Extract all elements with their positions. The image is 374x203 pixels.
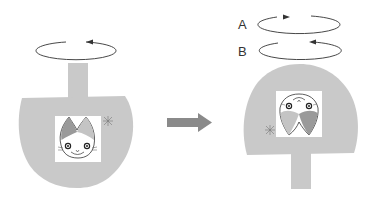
sparkle-icon <box>265 125 275 135</box>
rotation-arrow-counterclockwise-icon <box>36 40 116 60</box>
label-a: A <box>238 17 247 32</box>
sparkle-icon <box>103 116 113 126</box>
right-panel <box>244 15 358 190</box>
transition-arrow-icon <box>167 113 212 132</box>
rotation-arrow-counterclockwise-icon <box>259 40 341 60</box>
diagram-canvas <box>0 0 374 203</box>
left-panel <box>19 40 133 189</box>
cat-card <box>55 116 101 162</box>
cat-card-rotated <box>276 91 322 137</box>
rotation-arrow-clockwise-icon <box>258 15 340 34</box>
label-b: B <box>238 44 247 59</box>
